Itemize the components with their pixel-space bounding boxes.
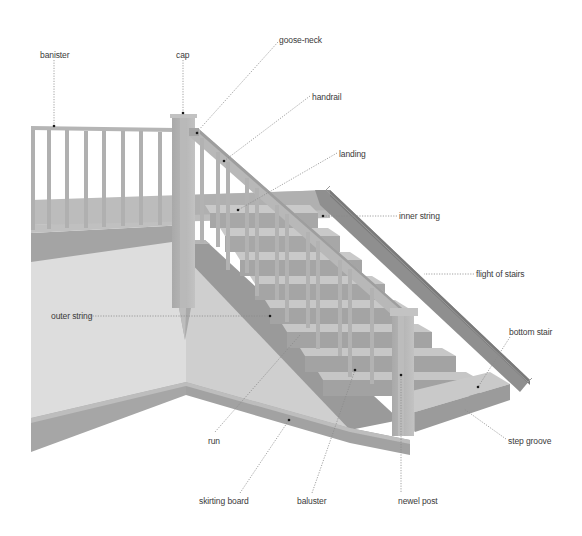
- label-banister: banister: [40, 50, 69, 60]
- label-cap: cap: [176, 50, 189, 60]
- cap-shape: [170, 114, 197, 118]
- left-wall: [31, 240, 186, 452]
- label-skirting-board: skirting board: [199, 496, 249, 506]
- bottom-newel-post: [390, 308, 418, 436]
- staircase-diagram: banister cap goose-neck handrail landing…: [0, 0, 582, 536]
- staircase-illustration: [0, 0, 582, 536]
- label-goose-neck: goose-neck: [279, 35, 322, 45]
- label-newel-post: newel post: [398, 496, 438, 506]
- label-inner-string: inner string: [399, 211, 440, 221]
- label-step-groove: step groove: [508, 436, 551, 446]
- label-outer-string: outer string: [51, 311, 92, 321]
- label-landing: landing: [339, 149, 366, 159]
- label-run: run: [208, 436, 220, 446]
- label-bottom-stair: bottom stair: [509, 327, 552, 337]
- label-handrail: handrail: [312, 92, 341, 102]
- label-flight-of-stairs: flight of stairs: [476, 269, 524, 279]
- upper-newel-post: [170, 114, 197, 340]
- label-baluster: baluster: [297, 496, 326, 506]
